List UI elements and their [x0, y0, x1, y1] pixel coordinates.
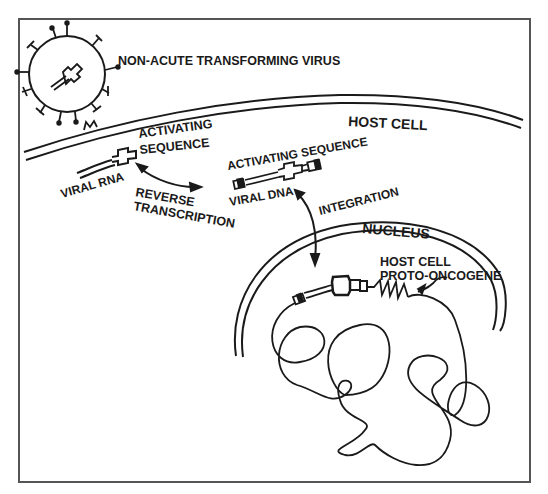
proto-oncogene-label: HOST CELL PROTO-ONCOGENE: [380, 255, 501, 283]
virus-label: NON-ACUTE TRANSFORMING VIRUS: [118, 54, 340, 68]
svg-text:PROTO-ONCOGENE: PROTO-ONCOGENE: [380, 269, 501, 283]
viral-integration-diagram: NON-ACUTE TRANSFORMING VIRUS HOST CELL A…: [0, 0, 548, 494]
virus-particle: [15, 21, 120, 125]
nucleus-label: NUCLEUS: [362, 220, 431, 242]
rna-activating-sequence-icon: [112, 148, 136, 165]
host-chromosome: [272, 276, 489, 465]
integration-arrow: [295, 190, 319, 265]
virus-rna-icon: [51, 64, 82, 90]
activating-sequence-dna-label: ACTIVATING SEQUENCE: [226, 134, 369, 172]
receptor-icon: [84, 121, 97, 130]
nucleus-membrane: [235, 222, 506, 357]
reverse-transcription-label: REVERSE TRANSCRIPTION: [132, 185, 236, 231]
host-cell-label: HOST CELL: [348, 113, 429, 133]
integration-label: INTEGRATION: [317, 185, 400, 218]
provirus-activating-sequence-icon: [332, 276, 350, 295]
viral-rna-label: VIRAL RNA: [59, 169, 126, 200]
dna-activating-sequence-icon: [278, 162, 302, 180]
figure-border: [19, 19, 530, 482]
activating-sequence-rna-label: ACTIVATING SEQUENCE: [137, 117, 213, 157]
svg-text:HOST CELL: HOST CELL: [380, 255, 451, 269]
